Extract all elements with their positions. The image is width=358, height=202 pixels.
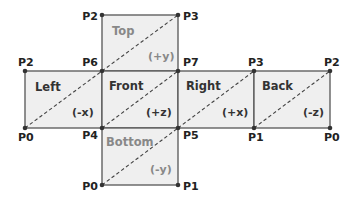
face-label-front: Front <box>109 79 144 93</box>
face-label-top: Top <box>112 24 134 38</box>
point-label: P2 <box>324 56 340 69</box>
point-label: P2 <box>82 10 98 23</box>
point-label: P6 <box>82 56 98 69</box>
face-label-left: Left <box>35 80 61 94</box>
axis-label-top: (+y) <box>148 50 174 63</box>
axis-label-left: (-x) <box>72 106 94 119</box>
face-label-right: Right <box>186 79 221 93</box>
point-label: P0 <box>324 131 340 144</box>
cube-net-diagram: P2 P3 P2 P0 P6 P7 P4 P5 P3 P1 P2 P0 P0 P… <box>0 0 358 202</box>
point-label: P3 <box>183 10 199 23</box>
point-label: P4 <box>82 129 98 142</box>
point-label: P2 <box>18 56 34 69</box>
point-label: P1 <box>183 180 199 193</box>
point-label: P0 <box>18 131 34 144</box>
axis-label-bottom: (-y) <box>150 163 172 176</box>
point-label: P0 <box>82 180 98 193</box>
face-label-back: Back <box>262 79 293 93</box>
axis-label-back: (-z) <box>303 106 324 119</box>
point-label: P3 <box>248 56 264 69</box>
point-label: P1 <box>248 131 264 144</box>
point-label: P7 <box>183 56 199 69</box>
point-label: P5 <box>183 129 199 142</box>
axis-label-right: (+x) <box>222 106 248 119</box>
axis-label-front: (+z) <box>146 106 172 119</box>
face-label-bottom: Bottom <box>106 135 154 149</box>
